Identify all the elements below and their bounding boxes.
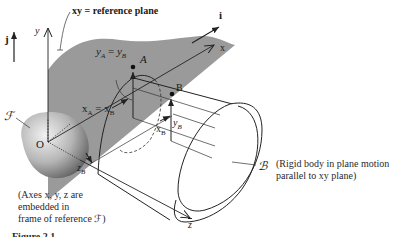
origin-label: O (36, 139, 44, 150)
point-b (170, 92, 175, 97)
body-label: ℬ (258, 160, 267, 172)
xA-equals-xB-label: xA = xB (82, 103, 114, 117)
frame-label: ℱ (4, 110, 13, 122)
body-note: (Rigid body in plane motion parallel to … (276, 158, 389, 182)
figure-caption: Figure 2.1 (12, 231, 55, 237)
point-a-label: A (140, 54, 147, 65)
z-axis-label: z (188, 220, 192, 230)
y-axis-label: y (35, 26, 39, 36)
axes-note: (Axes x, y, z are embedded in frame of r… (18, 189, 106, 225)
unit-j-label: j (5, 34, 9, 45)
zB-label: zB (77, 163, 85, 176)
point-b-label: B (176, 83, 183, 93)
reference-plane-label: xy = reference plane (72, 6, 158, 16)
xB-label: xB (156, 124, 166, 137)
point-a (131, 65, 136, 70)
yA-equals-yB-label: yA = yB (96, 46, 126, 60)
cylinder-far-end (178, 103, 262, 211)
cylinder-bottom-edge (98, 174, 170, 220)
yB-label: yB (173, 118, 182, 131)
plane-leader (60, 12, 70, 50)
x-axis-label: x (220, 43, 225, 53)
unit-i-label: i (219, 10, 222, 21)
